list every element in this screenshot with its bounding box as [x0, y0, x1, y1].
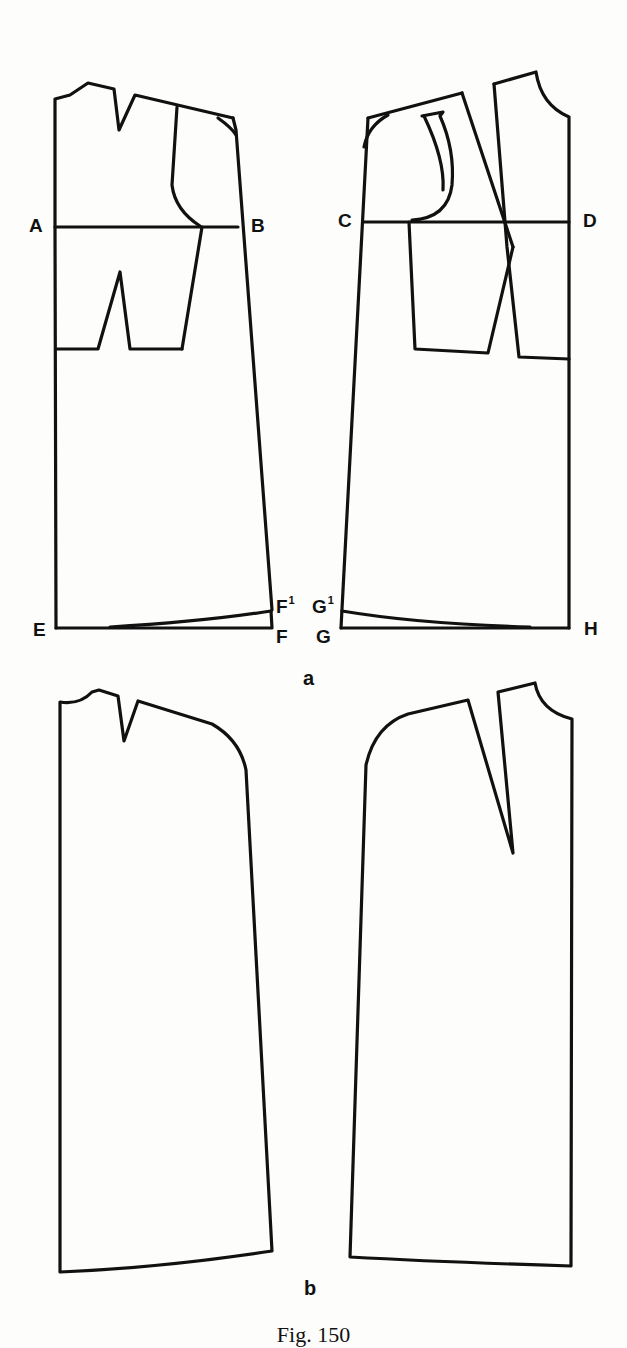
point-label-g: G — [316, 627, 331, 646]
point-label-f1-superscript: 1 — [289, 594, 295, 606]
point-label-f: F — [276, 627, 288, 646]
figure-caption: Fig. 150 — [0, 1322, 627, 1348]
point-label-f1-base: F — [276, 596, 288, 617]
part-a-back-pattern — [55, 83, 272, 628]
part-label-a: a — [303, 668, 314, 688]
part-b-front-pattern — [350, 683, 572, 1266]
part-label-b: b — [304, 1278, 316, 1298]
point-label-g1: G1 — [312, 597, 334, 616]
point-label-e: E — [33, 620, 46, 639]
part-a-front-pattern — [341, 72, 569, 628]
point-label-g1-superscript: 1 — [328, 594, 334, 606]
point-label-b: B — [251, 216, 265, 235]
part-b-back-pattern — [60, 690, 272, 1272]
point-label-g1-base: G — [312, 596, 327, 617]
point-label-a: A — [29, 216, 43, 235]
point-label-f1: F1 — [276, 597, 295, 616]
point-label-d: D — [583, 211, 597, 230]
point-label-h: H — [584, 619, 598, 638]
point-label-c: C — [338, 211, 352, 230]
